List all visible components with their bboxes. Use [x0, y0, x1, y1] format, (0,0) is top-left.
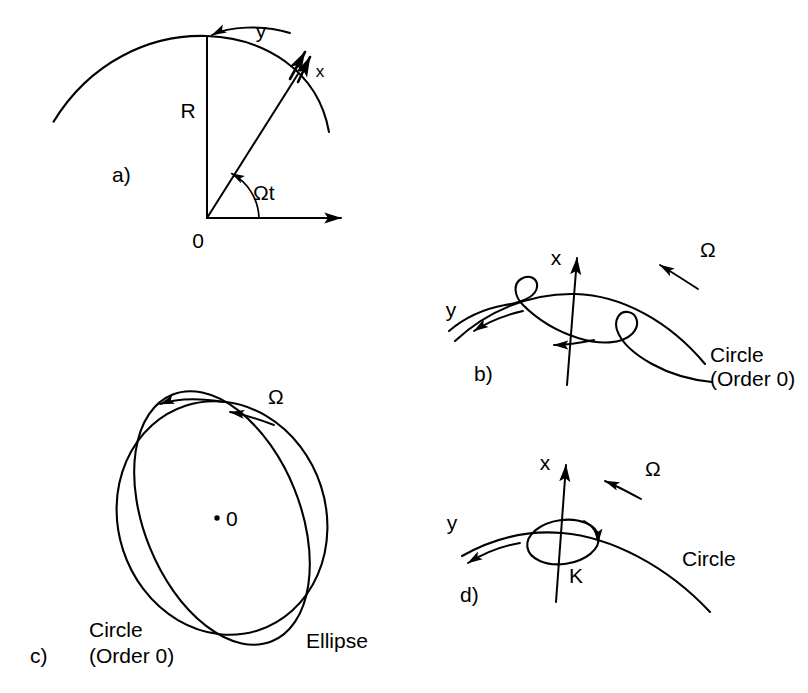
panel-d-epicycle-label: K [569, 564, 583, 587]
panel-a-radius-label: R [180, 99, 195, 122]
panel-c-ellipse-label: Ellipse [306, 629, 368, 652]
panel-b-x-axis [567, 258, 577, 385]
panel-a-x-axis-label: x [316, 62, 325, 81]
panel-b: x y Ω Circle (Order 0) b) [446, 238, 795, 390]
panel-a-y-direction-arrow [212, 27, 290, 35]
panel-d-omega-label: Ω [645, 457, 661, 480]
panel-a-angle-label: Ωt [253, 181, 275, 204]
panel-a-label: a) [112, 163, 131, 186]
panel-b-y-axis-label: y [446, 298, 457, 321]
panel-b-label: b) [474, 362, 493, 385]
panel-b-omega-label: Ω [700, 238, 716, 261]
panel-c-circle-label-line1: Circle [89, 618, 143, 641]
figure-svg: R 0 Ωt y x a) x y Ω Circle (Order 0) b) [0, 0, 808, 693]
panel-d-y-direction-arrow [468, 543, 520, 563]
panel-c-center-dot [214, 515, 219, 520]
figure-canvas: R 0 Ωt y x a) x y Ω Circle (Order 0) b) [0, 0, 808, 693]
panel-d-circle-arc [462, 532, 710, 612]
panel-d-label: d) [460, 583, 479, 606]
panel-b-flow-direction-arrow [554, 340, 594, 345]
panel-b-circle-order0-arc [455, 294, 705, 364]
panel-a-origin-label: 0 [192, 229, 204, 252]
panel-d-y-axis-label: y [447, 511, 458, 534]
panel-c-omega-label: Ω [268, 385, 284, 408]
panel-b-curve-label-line1: Circle [710, 343, 764, 366]
panel-c-circle-label-line2: (Order 0) [89, 644, 174, 667]
panel-d-epicycle-K [524, 515, 601, 569]
panel-c: 0 Ω Circle (Order 0) Ellipse c) [30, 365, 368, 670]
panel-c-center-label: 0 [226, 507, 238, 530]
panel-a-y-axis-label: y [256, 19, 267, 42]
panel-a: R 0 Ωt y x a) [54, 19, 341, 252]
panel-b-x-axis-label: x [551, 246, 562, 269]
panel-b-omega-arrow [660, 265, 698, 289]
panel-c-label: c) [30, 644, 48, 667]
panel-b-curve-label-line2: (Order 0) [710, 367, 795, 390]
panel-d-x-axis-label: x [540, 451, 551, 474]
panel-d-curve-label: Circle [682, 547, 736, 570]
panel-d-omega-arrow [605, 481, 641, 499]
panel-d: x y Ω K Circle d) [447, 451, 736, 612]
